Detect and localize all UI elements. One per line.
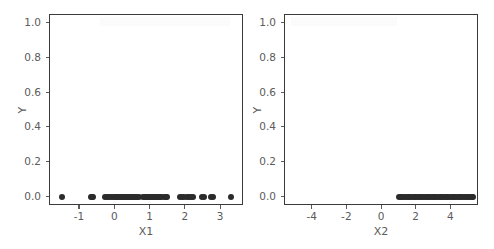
x-axis-label-right: X2	[264, 226, 494, 238]
data-point	[164, 194, 170, 200]
data-point	[190, 194, 196, 200]
data-point	[210, 194, 216, 200]
y-tick-mark	[281, 196, 285, 197]
y-tick-label: 0.2	[242, 156, 276, 167]
y-tick-mark	[46, 161, 50, 162]
x-tick-label: 2	[165, 211, 205, 222]
y-tick-mark	[281, 57, 285, 58]
x-tick-label: 3	[200, 211, 240, 222]
scatter-panel-x2: 0.00.20.40.60.81.0 -4-2024 X2 Y	[247, 0, 494, 249]
x-tick-label: 4	[430, 211, 470, 222]
scatter-panel-x1: 0.00.20.40.60.81.0 -10123 X1 Y	[0, 0, 247, 249]
y-tick-label: 0.2	[7, 156, 41, 167]
axes-right	[284, 14, 478, 205]
y-tick-mark	[46, 22, 50, 23]
x-tick-mark	[381, 205, 382, 209]
y-tick-mark	[281, 22, 285, 23]
x-tick-mark	[184, 205, 185, 209]
x-tick-label: -1	[59, 211, 99, 222]
y-tick-mark	[46, 196, 50, 197]
y-tick-mark	[46, 92, 50, 93]
x-tick-mark	[311, 205, 312, 209]
data-point	[201, 194, 207, 200]
data-point	[59, 194, 65, 200]
y-tick-label: 1.0	[242, 17, 276, 28]
y-tick-label: 0.8	[242, 52, 276, 63]
data-point	[90, 194, 96, 200]
x-tick-mark	[346, 205, 347, 209]
data-point	[228, 194, 234, 200]
x-axis-label-left: X1	[29, 226, 263, 238]
x-tick-mark	[78, 205, 79, 209]
x-tick-mark	[415, 205, 416, 209]
x-tick-label: 0	[94, 211, 134, 222]
plot-area-left	[50, 15, 242, 204]
x-tick-label: 1	[130, 211, 170, 222]
figure: 0.00.20.40.60.81.0 -10123 X1 Y 0.00.20.4…	[0, 0, 494, 249]
y-tick-mark	[46, 57, 50, 58]
y-tick-mark	[281, 126, 285, 127]
axes-left	[49, 14, 243, 205]
y-tick-label: 0.0	[7, 191, 41, 202]
y-axis-label-left: Y	[17, 90, 29, 130]
y-tick-label: 0.8	[7, 52, 41, 63]
x-tick-mark	[149, 205, 150, 209]
x-tick-mark	[220, 205, 221, 209]
y-axis-label-right: Y	[252, 90, 264, 130]
y-tick-mark	[46, 126, 50, 127]
plot-area-right	[285, 15, 477, 204]
y-tick-label: 1.0	[7, 17, 41, 28]
data-point	[470, 194, 476, 200]
y-tick-label: 0.0	[242, 191, 276, 202]
x-tick-mark	[450, 205, 451, 209]
y-tick-mark	[281, 92, 285, 93]
x-tick-mark	[114, 205, 115, 209]
y-tick-mark	[281, 161, 285, 162]
